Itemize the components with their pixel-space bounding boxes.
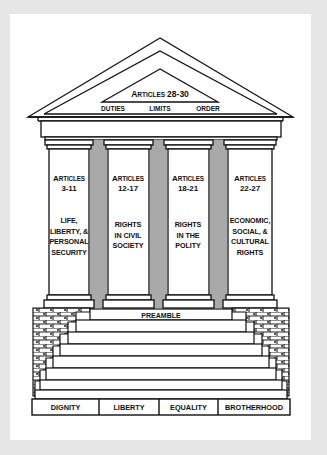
foundation (32, 399, 290, 415)
entablature (41, 121, 281, 140)
preamble-label: PREAMBLE (141, 312, 181, 319)
temple-diagram: ARTICLES28-30 DUTIES LIMITS ORDER PREAMB… (0, 0, 327, 455)
pediment-heading: ARTICLES28-30 (131, 89, 189, 99)
pediment-label-order: ORDER (196, 105, 220, 112)
pediment-label-duties: DUTIES (101, 105, 126, 112)
pediment-label-limits: LIMITS (149, 105, 171, 112)
